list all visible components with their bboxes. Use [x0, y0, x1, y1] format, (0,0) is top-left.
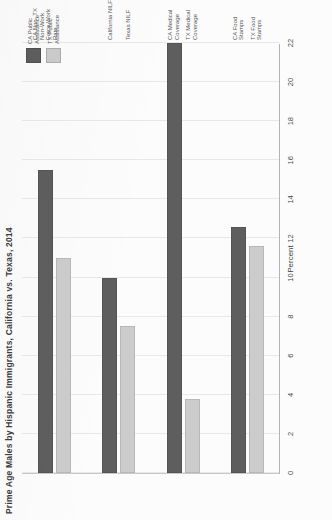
legend-swatch — [26, 48, 41, 63]
bar-group: CA Non- TX Non-Work Force Work Rate — [22, 44, 87, 473]
bar-row: TX Food Stamps — [249, 44, 264, 473]
chart-legend: CA Public AssistanceTX Public Assistance — [26, 8, 61, 63]
category-label: TX Medical Coverage — [186, 0, 199, 40]
bar — [102, 278, 117, 473]
legend-item: TX Public Assistance — [46, 8, 61, 63]
category-label: CA Medical Coverage — [168, 0, 181, 40]
category-label: TX Food Stamps — [250, 0, 263, 40]
bar-group: CA Medical CoverageTX Medical Coverage — [151, 44, 216, 473]
chart-title: Prime Age Males by Hispanic Immigrants, … — [4, 0, 14, 520]
bar-row — [56, 44, 71, 473]
bar — [38, 170, 53, 473]
chart-page: Prime Age Males by Hispanic Immigrants, … — [0, 0, 332, 520]
bar-group: CA Food StampsTX Food Stamps — [216, 44, 281, 473]
bar-row: CA Food Stamps — [231, 44, 246, 473]
bar-group: California NILFTexas NILF — [87, 44, 152, 473]
legend-label: CA Public Assistance — [27, 8, 40, 44]
legend-label: TX Public Assistance — [47, 8, 60, 44]
bar-row: CA Non- TX Non-Work Force Work Rate — [38, 44, 53, 473]
legend-swatch — [46, 48, 61, 63]
category-label: Texas NILF — [124, 0, 131, 40]
category-label: California NILF — [106, 0, 113, 40]
bar — [185, 399, 200, 473]
bar — [120, 326, 135, 473]
rotated-chart-frame: Prime Age Males by Hispanic Immigrants, … — [0, 0, 332, 520]
bar-row: Texas NILF — [120, 44, 135, 473]
bar-groups: CA Non- TX Non-Work Force Work RateCalif… — [22, 44, 279, 473]
bar-row: CA Medical Coverage — [167, 44, 182, 473]
bar — [56, 258, 71, 473]
bar — [231, 227, 246, 473]
bar-row: TX Medical Coverage — [185, 44, 200, 473]
bar-row: California NILF — [102, 44, 117, 473]
bar — [167, 43, 182, 473]
category-label: CA Food Stamps — [232, 0, 245, 40]
axis-title-percent: Percent — [286, 44, 295, 474]
plot-area: 2220181614121086420 CA Non- TX Non-Work … — [22, 44, 280, 474]
legend-item: CA Public Assistance — [26, 8, 41, 63]
bar — [249, 246, 264, 473]
